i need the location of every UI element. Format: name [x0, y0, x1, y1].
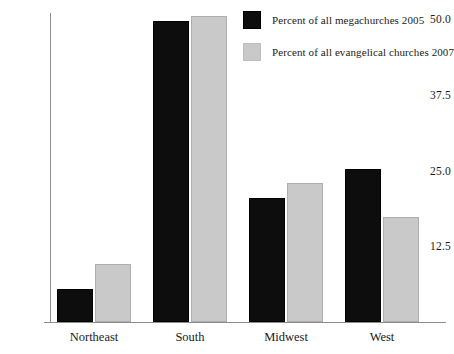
x-axis-label-west: West [370, 330, 395, 345]
legend-item-1: Percent of all evangelical churches 2007 [243, 43, 454, 61]
bar-west-series-0 [345, 169, 381, 322]
bar-northeast-series-1 [95, 264, 131, 322]
bar-south-series-1 [191, 16, 227, 322]
x-axis-label-south: South [175, 330, 204, 345]
x-axis-line [44, 322, 446, 323]
chart-legend: Percent of all megachurches 2005Percent … [243, 11, 454, 75]
x-axis-label-midwest: Midwest [264, 330, 308, 345]
bar-midwest-series-1 [287, 183, 323, 322]
bar-south-series-0 [153, 21, 189, 322]
bar-northeast-series-0 [57, 289, 93, 322]
legend-swatch-icon-0 [243, 11, 261, 29]
legend-label-0: Percent of all megachurches 2005 [272, 14, 424, 26]
legend-item-0: Percent of all megachurches 2005 [243, 11, 454, 29]
bar-west-series-1 [383, 217, 419, 322]
legend-swatch-icon-1 [243, 43, 261, 61]
bar-midwest-series-0 [249, 198, 285, 322]
legend-label-1: Percent of all evangelical churches 2007 [272, 46, 454, 58]
x-axis-label-northeast: Northeast [70, 330, 119, 345]
